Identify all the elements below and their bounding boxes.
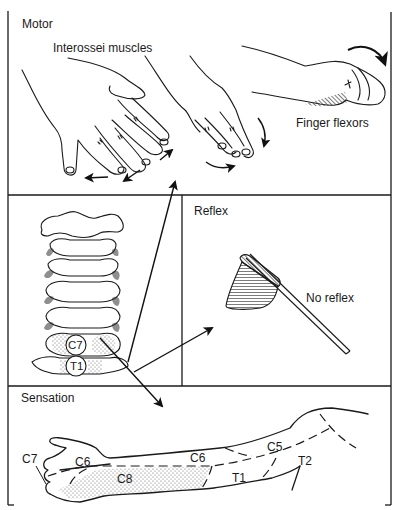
dermatome-label-c6-forearm: C6 — [190, 452, 205, 465]
fist-finger-flexors-illustration — [242, 46, 385, 105]
motor-heading: Motor — [22, 18, 53, 31]
hand-finger-abduction-illustration — [190, 56, 253, 157]
vertebra-label-t1: T1 — [70, 360, 83, 373]
interossei-arrows — [86, 150, 172, 181]
flexor-hatched-region — [305, 92, 348, 106]
vertebra-label-c7: C7 — [68, 339, 83, 352]
finger-flexors-label: Finger flexors — [296, 117, 369, 130]
dermatome-label-t1: T1 — [232, 472, 246, 485]
dermatome-label-c7: C7 — [22, 453, 37, 466]
hand-interossei-illustration — [22, 56, 200, 175]
no-reflex-label: No reflex — [306, 292, 354, 305]
reflex-heading: Reflex — [194, 205, 228, 218]
dermatome-label-c6-hand: C6 — [75, 456, 90, 469]
interossei-label: Interossei muscles — [53, 42, 152, 55]
dermatome-label-t2: T2 — [298, 455, 312, 468]
sensation-heading: Sensation — [21, 392, 74, 405]
fist-flexion-arrow — [348, 47, 385, 64]
finger-curl-arrows — [206, 118, 265, 168]
dermatome-label-c5: C5 — [267, 441, 282, 454]
diagram-artwork — [0, 0, 398, 510]
dermatome-label-c8: C8 — [117, 473, 132, 486]
